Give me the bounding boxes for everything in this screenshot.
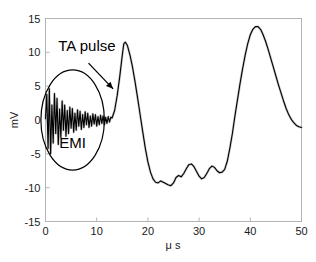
x-tick-label-50: 50 — [295, 225, 307, 237]
x-tick-label-40: 40 — [244, 225, 256, 237]
y-axis-title: mV — [8, 111, 20, 128]
x-axis-tick-labels: 01020304050 — [42, 225, 307, 237]
y-tick-label-0: 0 — [34, 114, 40, 126]
y-tick-label--10: -10 — [25, 182, 41, 194]
x-tick-label-10: 10 — [91, 225, 103, 237]
x-axis-ticks — [46, 218, 302, 222]
y-axis-tick-labels: 151050-5-10-15 — [25, 13, 41, 228]
emi-annotation-label: EMI — [59, 134, 86, 151]
y-tick-label--5: -5 — [31, 148, 41, 160]
x-tick-label-20: 20 — [142, 225, 154, 237]
x-tick-label-30: 30 — [193, 225, 205, 237]
y-tick-label-5: 5 — [34, 80, 40, 92]
x-tick-label-0: 0 — [42, 225, 48, 237]
x-axis-title: μ s — [166, 239, 181, 251]
ta-pulse-annotation-label: TA pulse — [58, 37, 115, 54]
y-tick-label-10: 10 — [28, 46, 40, 58]
y-tick-label-15: 15 — [28, 13, 40, 25]
y-tick-label--15: -15 — [25, 216, 41, 228]
figure-container: 01020304050 151050-5-10-15 μ s mV EMI TA… — [0, 0, 316, 262]
chart-plot: 01020304050 151050-5-10-15 μ s mV EMI TA… — [0, 0, 316, 262]
